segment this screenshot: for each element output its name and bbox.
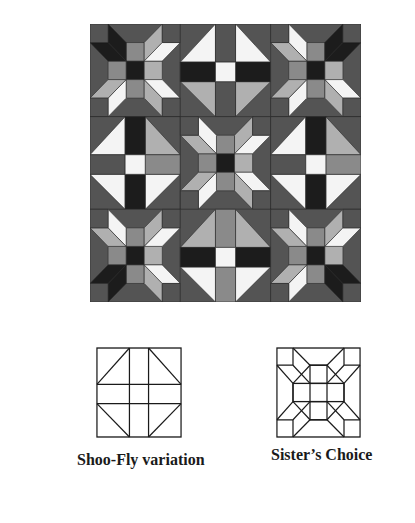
quilt-top-illustration [90, 24, 361, 302]
shoo-fly-variation-block [180, 209, 270, 302]
sisters-choice-caption: Sister’s Choice [271, 446, 372, 464]
sisters-choice-block [180, 117, 270, 210]
shoo-fly-diagram [96, 347, 182, 438]
shoo-fly-variation-block [90, 117, 180, 210]
sisters-choice-diagram [276, 347, 361, 438]
sisters-choice-block [90, 24, 180, 117]
sisters-choice-block [90, 209, 180, 302]
sisters-choice-block [271, 209, 361, 302]
shoo-fly-variation-block [180, 24, 270, 117]
shoo-fly-caption: Shoo-Fly variation [77, 451, 205, 469]
shoo-fly-variation-block [271, 117, 361, 210]
sisters-choice-block [271, 24, 361, 117]
quilt-top [90, 24, 361, 302]
